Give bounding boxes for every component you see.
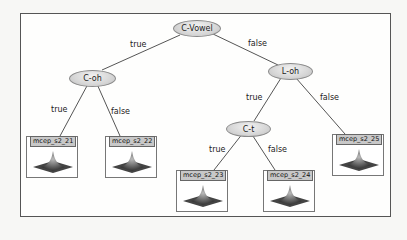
- edge-label-loh-false: false: [320, 93, 339, 102]
- edge-label-coh-true: true: [51, 105, 67, 114]
- leaf-label: mcep_s2_22: [109, 136, 155, 147]
- edge-label-root-false: false: [248, 39, 267, 48]
- leaf-mcep-s2-25: mcep_s2_25: [332, 134, 384, 176]
- node-c-vowel: C-Vowel: [173, 20, 221, 37]
- gaussian-surface-icon: [268, 181, 312, 209]
- leaf-label: mcep_s2_23: [180, 170, 226, 181]
- leaf-mcep-s2-24: mcep_s2_24: [263, 170, 315, 212]
- leaf-label: mcep_s2_25: [336, 134, 382, 145]
- leaf-label: mcep_s2_24: [267, 170, 313, 181]
- gaussian-surface-icon: [181, 181, 225, 209]
- gaussian-surface-icon: [110, 147, 154, 175]
- node-c-oh: C-oh: [69, 70, 116, 87]
- edge-label-ct-true: true: [209, 145, 225, 154]
- node-l-oh: L-oh: [268, 63, 313, 80]
- edge-label-loh-true: true: [246, 93, 262, 102]
- leaf-mcep-s2-22: mcep_s2_22: [105, 136, 157, 178]
- gaussian-surface-icon: [337, 145, 381, 173]
- node-c-t: C-t: [226, 121, 271, 137]
- gaussian-surface-icon: [31, 147, 75, 175]
- leaf-label: mcep_s2_21: [30, 136, 76, 147]
- leaf-mcep-s2-23: mcep_s2_23: [176, 170, 228, 212]
- edge-label-ct-false: false: [268, 145, 287, 154]
- edge-label-root-true: true: [130, 40, 146, 49]
- leaf-mcep-s2-21: mcep_s2_21: [26, 136, 78, 178]
- edge-label-coh-false: false: [111, 107, 130, 116]
